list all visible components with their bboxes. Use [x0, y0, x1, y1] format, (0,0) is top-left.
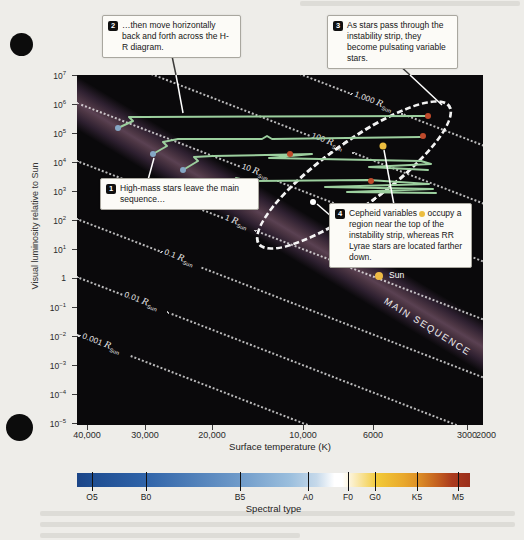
spectral-tick	[375, 472, 376, 491]
y-axis-tick	[72, 307, 77, 308]
track-end-dot	[420, 133, 426, 139]
y-axis-tick-label: 10−4	[26, 389, 66, 400]
textbook-hr-diagram-figure: Visual luminosity relative to Sun Surfac…	[0, 0, 524, 540]
x-axis-tick-label: 10,000	[278, 430, 328, 440]
spectral-tick	[458, 472, 459, 491]
callout-2-text: …then move horizontally back and forth a…	[122, 20, 234, 53]
track-end-dot	[425, 113, 431, 119]
y-axis-tick	[72, 336, 77, 337]
callout-1: 1 High-mass stars leave the main sequenc…	[100, 178, 259, 210]
y-axis-tick	[72, 133, 77, 134]
page-bleedthrough-text	[40, 522, 515, 527]
spectral-tick-label: G0	[360, 492, 390, 502]
spectral-tick	[308, 472, 309, 491]
y-axis-tick	[72, 278, 77, 279]
track-end-dot	[287, 151, 293, 157]
x-axis-tick-label: 2000	[461, 430, 511, 440]
evolution-track	[183, 154, 431, 170]
y-axis-tick-label: 104	[26, 157, 66, 168]
y-axis-tick-label: 10−2	[26, 331, 66, 342]
spectral-type-colorbar	[77, 473, 470, 487]
callout-4-text: Cepheid variables occupy a region near t…	[349, 208, 465, 263]
sun-label: Sun	[389, 270, 404, 280]
y-axis-tick	[72, 220, 77, 221]
y-axis-tick-label: 103	[26, 186, 66, 197]
spectral-tick	[240, 472, 241, 491]
y-axis-tick	[72, 423, 77, 424]
y-axis-tick-label: 10−1	[26, 302, 66, 313]
callout-3-number: 3	[333, 21, 343, 31]
y-axis-tick-label: 105	[26, 128, 66, 139]
y-axis-tick	[72, 75, 77, 76]
callout-leader-line	[172, 56, 176, 75]
y-axis-tick	[72, 104, 77, 105]
spectral-type-title: Spectral type	[77, 503, 470, 514]
spectral-tick	[92, 472, 93, 491]
callout-4-number: 4	[335, 209, 345, 219]
y-axis-tick-label: 101	[26, 244, 66, 255]
spectral-tick	[348, 472, 349, 491]
callout-1-text: High-mass stars leave the main sequence…	[120, 183, 252, 205]
x-axis-tick-label: 40,000	[62, 430, 112, 440]
y-axis-tick	[72, 249, 77, 250]
callout-4: 4 Cepheid variables occupy a region near…	[329, 203, 472, 268]
callout-1-number: 1	[106, 184, 116, 194]
y-axis-tick-label: 10−3	[26, 360, 66, 371]
spectral-tick-label: K5	[402, 492, 432, 502]
y-axis-tick-label: 1	[26, 273, 66, 283]
rr-lyrae-dot	[310, 199, 316, 205]
y-axis-tick-label: 106	[26, 99, 66, 110]
y-axis-tick	[72, 394, 77, 395]
y-axis-tick	[72, 162, 77, 163]
evolution-track	[118, 116, 425, 128]
spectral-tick	[417, 472, 418, 491]
callout-3-text: As stars pass through the instability st…	[347, 20, 451, 64]
y-axis-tick	[72, 365, 77, 366]
sun-dot	[375, 272, 383, 280]
cepheid-dot	[380, 143, 387, 150]
spectral-tick-label: B5	[225, 492, 255, 502]
y-axis-tick	[72, 191, 77, 192]
track-end-dot	[368, 178, 374, 184]
callout-2-number: 2	[108, 21, 118, 31]
callout-3: 3 As stars pass through the instability …	[327, 15, 458, 69]
x-axis-title: Surface temperature (K)	[77, 441, 483, 452]
spectral-tick-label: F0	[333, 492, 363, 502]
spectral-tick-label: A0	[293, 492, 323, 502]
callout-2: 2 …then move horizontally back and forth…	[102, 15, 241, 58]
x-axis-tick-label: 20,000	[187, 430, 237, 440]
spectral-tick-label: B0	[131, 492, 161, 502]
track-start-dot	[180, 167, 186, 173]
page-bleedthrough-text	[300, 1, 520, 6]
y-axis-tick-label: 102	[26, 215, 66, 226]
track-start-dot	[115, 125, 121, 131]
spectral-tick	[146, 472, 147, 491]
track-start-dot	[150, 151, 156, 157]
page-bleedthrough-text	[40, 533, 300, 538]
x-axis-tick-label: 30,000	[120, 430, 170, 440]
hole-punch-mark	[10, 33, 33, 56]
y-axis-tick-label: 107	[26, 70, 66, 81]
x-axis-tick-label: 6000	[348, 430, 398, 440]
spectral-tick-label: O5	[77, 492, 107, 502]
y-axis-tick-label: 10−5	[26, 418, 66, 429]
spectral-tick-label: M5	[443, 492, 473, 502]
